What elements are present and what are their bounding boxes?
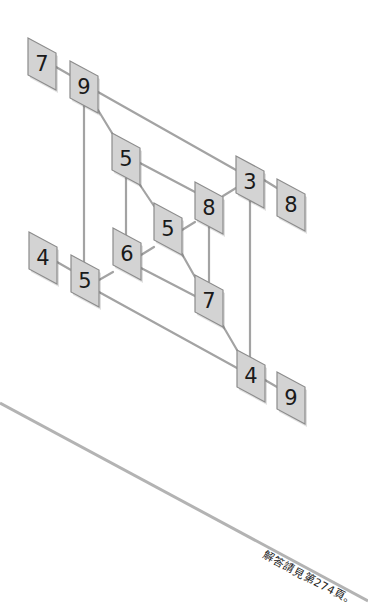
number-box: 5 [112, 133, 142, 188]
box-digit: 9 [77, 75, 90, 99]
connector-line [98, 110, 112, 133]
number-boxes: 7958385645749 [28, 38, 307, 427]
box-digit: 5 [161, 217, 174, 241]
connector-line [140, 185, 154, 206]
connector-line [223, 326, 237, 350]
connector-line [140, 163, 195, 192]
number-box: 8 [277, 179, 307, 234]
box-digit: 6 [120, 242, 133, 266]
connector-line [56, 67, 70, 75]
box-digit: 5 [119, 147, 132, 171]
puzzle-page: 7958385645749 解答請見第274頁。 [0, 0, 368, 606]
box-digit: 8 [202, 196, 215, 220]
number-box: 7 [28, 38, 58, 93]
number-box: 4 [29, 232, 59, 287]
number-box: 7 [195, 275, 225, 330]
box-digit: 4 [244, 364, 257, 388]
number-box: 5 [154, 203, 184, 258]
number-box: 5 [71, 255, 101, 310]
number-box: 8 [195, 182, 225, 237]
number-network-diagram: 7958385645749 [0, 0, 368, 606]
connector-line [141, 268, 195, 296]
number-box: 3 [236, 156, 266, 211]
box-digit: 8 [284, 193, 297, 217]
box-digit: 9 [284, 386, 297, 410]
connector-line [57, 262, 71, 270]
box-digit: 7 [35, 52, 48, 76]
connector-line [223, 188, 236, 196]
box-digit: 3 [243, 170, 256, 194]
number-box: 9 [277, 372, 307, 427]
number-box: 9 [70, 61, 100, 116]
connector-line [99, 272, 113, 280]
number-box: 6 [113, 228, 143, 283]
box-digit: 7 [202, 289, 215, 313]
box-digit: 5 [78, 269, 91, 293]
box-digit: 4 [36, 246, 49, 270]
number-box: 4 [237, 350, 267, 405]
